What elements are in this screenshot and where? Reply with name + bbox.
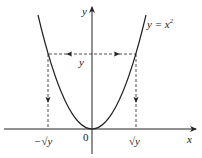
parabola-diagram: y x y 0 −√y √y y = x2 xyxy=(0,0,202,158)
x-axis-label: x xyxy=(186,133,192,145)
level-label: y xyxy=(78,56,84,68)
neg-root-label: −√y xyxy=(34,135,52,147)
origin-label: 0 xyxy=(83,131,89,143)
down-arrow-icon xyxy=(134,97,139,103)
pos-root-label: √y xyxy=(129,135,140,147)
function-label: y = x2 xyxy=(146,17,174,30)
down-arrow-icon xyxy=(46,97,51,103)
y-axis-label: y xyxy=(81,5,87,17)
